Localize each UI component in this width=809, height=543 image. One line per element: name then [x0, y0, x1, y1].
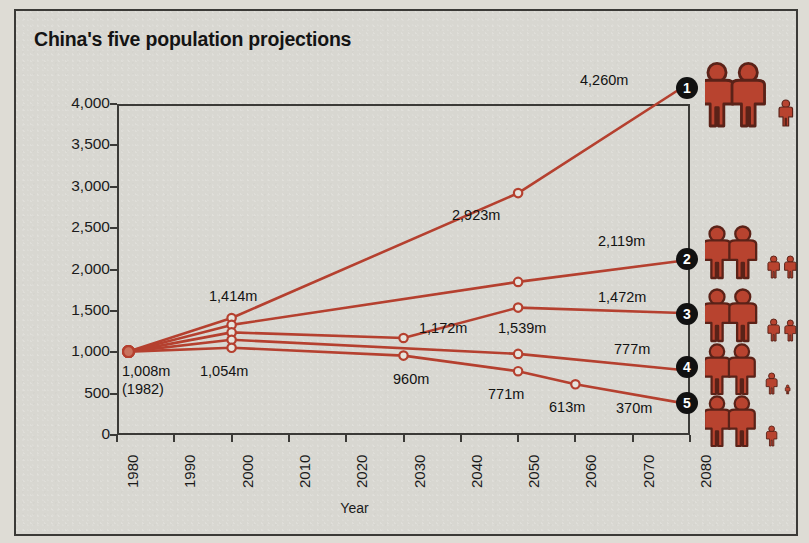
- y-axis-tick-mark: [110, 103, 117, 105]
- label-2050-series5: 771m: [488, 386, 524, 402]
- label-2050-series1: 2,923m: [452, 207, 500, 223]
- person-figure-icon: [705, 226, 730, 278]
- person-figure-icon: [705, 289, 730, 341]
- x-axis-title-text: Year: [340, 500, 368, 516]
- y-axis-tick-mark: [110, 269, 117, 271]
- y-axis-tick-label: 1,500: [71, 301, 110, 319]
- y-axis-tick-mark: [110, 186, 117, 188]
- x-axis-tick-label: 2000: [239, 455, 256, 488]
- x-axis-tick-label: 2010: [296, 455, 313, 488]
- x-axis-tick-label: 2040: [468, 455, 485, 488]
- person-figure-icon: [705, 344, 730, 394]
- label-2030-series3: 1,172m: [419, 320, 467, 336]
- label-start-year: (1982): [122, 381, 164, 397]
- x-axis-tick-label: 2080: [697, 455, 714, 488]
- y-axis-ticks-group: 4,0003,5003,0002,5002,0001,5001,0005000: [0, 0, 110, 543]
- y-axis-tick-label: 2,500: [71, 218, 110, 236]
- label-start-value: 1,008m: [122, 363, 170, 379]
- person-figure-icon: [768, 256, 779, 278]
- family-pictogram-5: [705, 392, 797, 450]
- person-figure-icon: [768, 319, 779, 341]
- series-badge-1[interactable]: 1: [676, 77, 698, 99]
- x-axis-tick-mark: [345, 435, 347, 442]
- x-axis-tick-mark: [231, 435, 233, 442]
- x-axis-tick-label: 2020: [353, 455, 370, 488]
- person-figure-icon: [785, 256, 796, 278]
- x-axis-tick-mark: [288, 435, 290, 442]
- person-figure-icon: [732, 63, 765, 126]
- label-2000-top: 1,414m: [209, 288, 257, 304]
- family-pictogram-3: [705, 285, 797, 345]
- y-axis-tick-label: 500: [84, 384, 110, 402]
- x-axis-tick-mark: [403, 435, 405, 442]
- y-axis-tick-mark: [110, 393, 117, 395]
- x-axis-tick-mark: [632, 435, 634, 442]
- person-figure-icon: [729, 289, 756, 341]
- series-badge-4[interactable]: 4: [676, 356, 698, 378]
- y-axis-tick-label: 4,000: [71, 94, 110, 112]
- y-axis-tick-label: 3,500: [71, 135, 110, 153]
- x-axis-tick-label: 2070: [640, 455, 657, 488]
- person-figure-icon: [729, 226, 756, 278]
- x-axis-title: Year: [0, 500, 809, 516]
- y-axis-tick-mark: [110, 310, 117, 312]
- label-end-series5: 370m: [616, 400, 652, 416]
- series-badge-5[interactable]: 5: [676, 392, 698, 414]
- x-axis-tick-mark: [574, 435, 576, 442]
- label-2030-series5: 960m: [393, 371, 429, 387]
- x-axis-tick-label: 2060: [582, 455, 599, 488]
- y-axis-tick-mark: [110, 227, 117, 229]
- person-figure-icon: [766, 373, 777, 394]
- series-badge-2[interactable]: 2: [676, 248, 698, 270]
- y-axis-tick-mark: [110, 144, 117, 146]
- label-2050-series3: 1,539m: [498, 320, 546, 336]
- label-end-series4: 777m: [614, 341, 650, 357]
- person-figure-icon: [705, 396, 730, 446]
- y-axis-tick-label: 0: [101, 425, 110, 443]
- person-figure-icon: [785, 320, 796, 341]
- person-figure-icon: [729, 396, 755, 446]
- x-axis-tick-label: 2050: [525, 455, 542, 488]
- x-axis-tick-mark: [460, 435, 462, 442]
- label-end-series1: 4,260m: [580, 72, 628, 88]
- y-axis-tick-mark: [110, 351, 117, 353]
- x-axis-tick-mark: [173, 435, 175, 442]
- x-axis-tick-mark: [517, 435, 519, 442]
- y-axis-tick-label: 3,000: [71, 177, 110, 195]
- family-pictogram-1: [705, 58, 797, 130]
- family-pictogram-2: [705, 222, 797, 282]
- label-2060-series5: 613m: [549, 399, 585, 415]
- label-end-series3: 1,472m: [598, 289, 646, 305]
- series-badge-3[interactable]: 3: [676, 303, 698, 325]
- x-axis-tick-label: 1990: [181, 455, 198, 488]
- person-figure-icon: [705, 63, 733, 126]
- x-axis-tick-label: 2030: [411, 455, 428, 488]
- x-axis-tick-mark: [116, 435, 118, 442]
- y-axis-tick-label: 1,000: [71, 342, 110, 360]
- person-figure-icon: [729, 344, 755, 394]
- label-2000-bottom: 1,054m: [200, 363, 248, 379]
- label-end-series2: 2,119m: [598, 233, 645, 249]
- person-figure-icon: [766, 426, 776, 446]
- x-axis-tick-label: 1980: [124, 455, 141, 488]
- person-figure-icon: [779, 100, 793, 126]
- chart-page: China's five population projections 4,00…: [0, 0, 809, 543]
- y-axis-tick-label: 2,000: [71, 260, 110, 278]
- family-pictogram-4: [705, 340, 797, 398]
- x-axis-tick-mark: [689, 435, 691, 442]
